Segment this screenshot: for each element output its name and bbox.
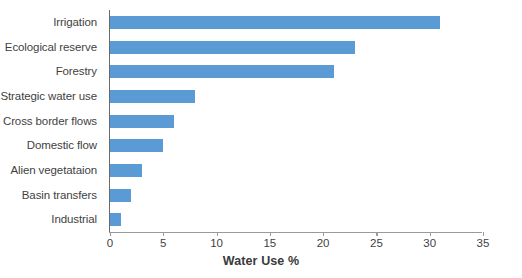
bar xyxy=(110,16,440,29)
value-axis-ticks: 05101520253035 xyxy=(110,232,492,252)
bar-row xyxy=(110,84,492,109)
category-label: Alien vegetataion xyxy=(0,158,104,183)
category-label-text: Strategic water use xyxy=(0,90,97,103)
tick-label: 10 xyxy=(210,237,223,250)
category-label-text: Forestry xyxy=(56,65,97,78)
bar-row xyxy=(110,133,492,158)
tick-mark xyxy=(376,232,377,236)
tick-label: 0 xyxy=(107,237,113,250)
category-label-text: Cross border flows xyxy=(3,115,97,128)
category-label: Forestry xyxy=(0,59,104,84)
tick-mark xyxy=(163,232,164,236)
bar-row xyxy=(110,35,492,60)
category-label: Domestic flow xyxy=(0,133,104,158)
bar-row xyxy=(110,109,492,134)
bar-row xyxy=(110,183,492,208)
tick-label: 25 xyxy=(370,237,383,250)
tick-label: 35 xyxy=(477,237,490,250)
tick-mark xyxy=(110,232,111,236)
value-axis-title: Water Use % xyxy=(0,254,522,268)
category-label: Industrial xyxy=(0,207,104,232)
bar-row xyxy=(110,158,492,183)
tick-label: 30 xyxy=(423,237,436,250)
category-label-text: Irrigation xyxy=(53,16,97,29)
bar xyxy=(110,189,131,202)
bar xyxy=(110,65,334,78)
bar-row xyxy=(110,59,492,84)
category-label-text: Alien vegetataion xyxy=(10,164,97,177)
plot-area xyxy=(110,10,492,232)
category-label-text: Domestic flow xyxy=(27,139,97,152)
bar xyxy=(110,90,195,103)
bar xyxy=(110,41,355,54)
tick-mark xyxy=(217,232,218,236)
bar xyxy=(110,213,121,226)
tick-mark xyxy=(483,232,484,236)
category-label: Cross border flows xyxy=(0,109,104,134)
category-label-text: Ecological reserve xyxy=(5,41,97,54)
bar-row xyxy=(110,10,492,35)
bar xyxy=(110,164,142,177)
category-label-text: Industrial xyxy=(51,213,97,226)
tick-mark xyxy=(270,232,271,236)
category-label: Ecological reserve xyxy=(0,35,104,60)
category-label-text: Basin transfers xyxy=(22,189,97,202)
bar xyxy=(110,139,163,152)
category-label: Strategic water use xyxy=(0,84,104,109)
bars-layer xyxy=(110,10,492,232)
tick-label: 15 xyxy=(263,237,276,250)
category-label: Basin transfers xyxy=(0,183,104,208)
tick-mark xyxy=(323,232,324,236)
category-label: Irrigation xyxy=(0,10,104,35)
tick-mark xyxy=(430,232,431,236)
bar-row xyxy=(110,207,492,232)
tick-label: 5 xyxy=(160,237,166,250)
tick-label: 20 xyxy=(317,237,330,250)
bar xyxy=(110,115,174,128)
category-axis: IrrigationEcological reserveForestryStra… xyxy=(0,10,104,232)
bar-chart: IrrigationEcological reserveForestryStra… xyxy=(0,0,522,278)
